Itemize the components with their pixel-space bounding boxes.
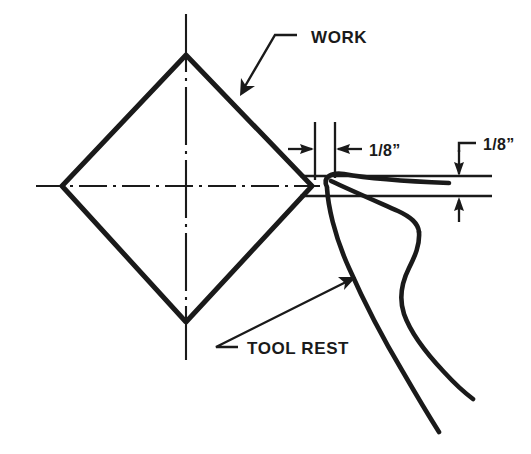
tool-rest-left-edge [327, 188, 439, 432]
horizontal-dimension: 1/8” [288, 142, 400, 159]
tool-rest-body [326, 174, 473, 432]
work-leader-line [244, 35, 297, 88]
horizontal-dim-arrow-left [300, 144, 314, 154]
work-callout: WORK [240, 28, 367, 96]
tool-rest-inner-edge [331, 181, 419, 232]
vertical-dim-leader [459, 143, 476, 152]
work-label: WORK [311, 28, 367, 47]
tool-rest-right-edge [401, 232, 473, 399]
vertical-dimension-label: 1/8” [483, 136, 514, 153]
tool-rest-leader-line [216, 281, 348, 347]
technical-diagram: 1/8” 1/8” WORK TOOL RE [0, 0, 531, 454]
tool-rest-label: TOOL REST [247, 339, 349, 358]
horizontal-dimension-label: 1/8” [369, 142, 400, 159]
tool-rest-callout: TOOL REST [216, 277, 356, 358]
vertical-dim-arrow-lower [454, 197, 464, 211]
vertical-dimension: 1/8” [454, 136, 514, 222]
reference-lines-group [300, 122, 492, 196]
vertical-dim-arrow-upper [454, 162, 464, 176]
diagram-canvas: 1/8” 1/8” WORK TOOL RE [0, 0, 531, 454]
horizontal-dim-arrow-right [336, 144, 350, 154]
